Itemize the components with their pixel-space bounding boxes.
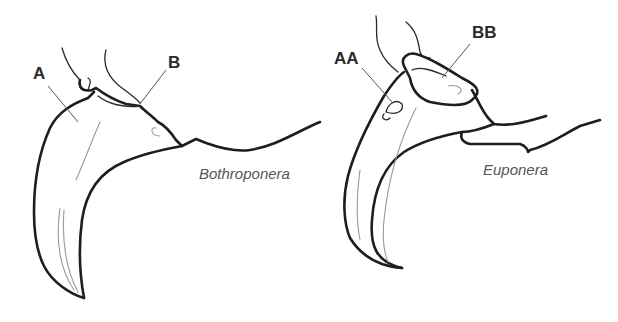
label-aa: AA: [334, 50, 359, 67]
euponera-mandible: [344, 16, 600, 268]
genus-label-bothroponera: Bothroponera: [199, 166, 290, 181]
label-bb: BB: [472, 24, 497, 41]
label-a: A: [33, 65, 45, 82]
leader-line-aa: [362, 68, 392, 102]
label-b: B: [168, 54, 180, 71]
genus-label-euponera: Euponera: [483, 162, 548, 177]
leader-line-b: [140, 70, 166, 104]
